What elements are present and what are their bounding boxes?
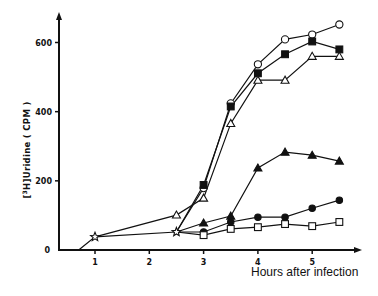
marker-open-square xyxy=(282,221,289,228)
marker-filled-square xyxy=(309,38,316,45)
x-tick-label: 3 xyxy=(201,258,207,267)
x-axis-arrow xyxy=(354,247,362,253)
marker-open-square xyxy=(200,232,207,239)
x-tick-label: 2 xyxy=(147,258,153,267)
y-axis-arrow xyxy=(56,12,62,20)
y-tick-label: 600 xyxy=(35,39,52,48)
x-tick-label: 1 xyxy=(92,258,98,267)
marker-filled-circle xyxy=(336,197,342,203)
marker-open-circle xyxy=(281,36,288,43)
y-tick-label: 400 xyxy=(35,108,52,117)
x-axis-label: Hours after infection xyxy=(251,265,358,279)
marker-open-circle xyxy=(336,21,343,28)
y-axis-label: [3H]Uridine ( CPM ) xyxy=(21,101,33,198)
axes xyxy=(56,12,362,253)
marker-filled-circle xyxy=(228,219,234,225)
y-label-text: Uridine ( CPM ) xyxy=(22,101,32,178)
marker-open-circle xyxy=(254,61,261,68)
marker-filled-circle xyxy=(255,214,261,220)
marker-open-triangle xyxy=(200,194,208,201)
marker-star xyxy=(172,227,181,235)
marker-filled-triangle xyxy=(227,212,235,219)
y-tick-label: 0 xyxy=(44,246,50,255)
marker-open-square xyxy=(309,223,316,230)
marker-open-square xyxy=(255,224,262,231)
marker-open-triangle xyxy=(172,211,180,218)
marker-open-square xyxy=(336,219,343,226)
marker-filled-triangle xyxy=(281,148,289,155)
marker-filled-square xyxy=(200,182,207,189)
marker-filled-circle xyxy=(282,214,288,220)
marker-filled-square xyxy=(282,51,289,58)
y-tick-label: 200 xyxy=(35,177,52,186)
marker-filled-triangle xyxy=(254,164,262,171)
series-lines xyxy=(79,25,340,251)
marker-filled-square xyxy=(227,103,234,110)
y-label-element: H] xyxy=(22,178,32,190)
chart: 12345 0200400600 Hours after infection [… xyxy=(0,0,378,296)
marker-open-square xyxy=(227,226,234,233)
marker-open-triangle xyxy=(227,119,235,126)
marker-open-circle xyxy=(309,31,316,38)
marker-filled-circle xyxy=(309,205,315,211)
series-markers xyxy=(91,21,344,241)
y-ticks: 0200400600 xyxy=(35,39,59,256)
